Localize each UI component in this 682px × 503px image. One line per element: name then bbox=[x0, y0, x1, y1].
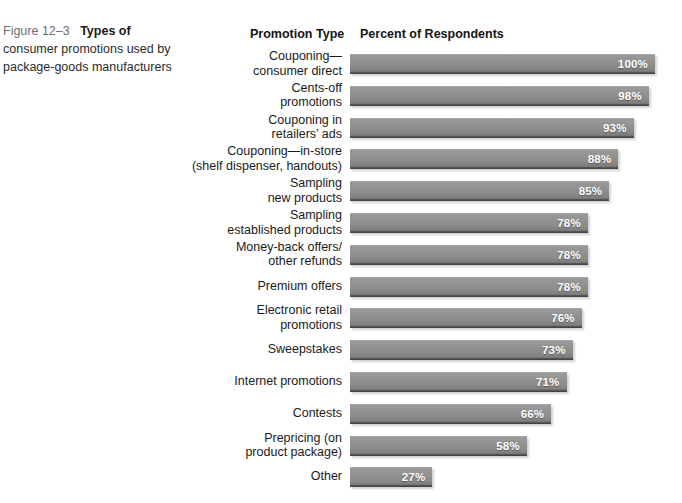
bar-row: Sweepstakes73% bbox=[0, 336, 682, 368]
bar-category-label: Prepricing (on product package) bbox=[82, 431, 342, 460]
bar-category-label: Contests bbox=[82, 406, 342, 421]
bar-row: Cents-off promotions98% bbox=[0, 82, 682, 114]
bar-category-label: Internet promotions bbox=[82, 374, 342, 389]
bar-value-label: 88% bbox=[588, 150, 612, 170]
bar-category-label: Electronic retail promotions bbox=[82, 303, 342, 332]
bar: 66% bbox=[350, 404, 551, 424]
bar: 85% bbox=[350, 181, 609, 201]
bar-value-label: 98% bbox=[618, 87, 642, 107]
bar-value-label: 66% bbox=[521, 405, 545, 425]
bar: 78% bbox=[350, 277, 588, 297]
column-header-promotion-type: Promotion Type bbox=[250, 27, 344, 41]
bar-track: 85% bbox=[350, 181, 609, 201]
bar-track: 78% bbox=[350, 277, 588, 297]
bar-row: Contests66% bbox=[0, 400, 682, 432]
bar-track: 73% bbox=[350, 340, 573, 360]
bar-value-label: 78% bbox=[557, 278, 581, 298]
bar-track: 93% bbox=[350, 118, 634, 138]
bar-row: Other27% bbox=[0, 463, 682, 495]
bar-row: Electronic retail promotions76% bbox=[0, 304, 682, 336]
bar-category-label: Money-back offers/ other refunds bbox=[82, 240, 342, 269]
bar-value-label: 71% bbox=[536, 373, 560, 393]
bar-track: 100% bbox=[350, 54, 655, 74]
column-header-percent-of-respondents: Percent of Respondents bbox=[360, 27, 504, 41]
bar-category-label: Sweepstakes bbox=[82, 342, 342, 357]
bar-category-label: Sampling established products bbox=[82, 208, 342, 237]
bar-row: Money-back offers/ other refunds78% bbox=[0, 241, 682, 273]
bar-track: 78% bbox=[350, 213, 588, 233]
bar-value-label: 73% bbox=[542, 341, 566, 361]
bar: 78% bbox=[350, 245, 588, 265]
bar-category-label: Other bbox=[82, 469, 342, 484]
bar-track: 71% bbox=[350, 372, 567, 392]
bar-track: 58% bbox=[350, 436, 527, 456]
bar-track: 27% bbox=[350, 467, 432, 487]
bar-value-label: 58% bbox=[496, 437, 520, 457]
bar-category-label: Sampling new products bbox=[82, 176, 342, 205]
bar-row: Prepricing (on product package)58% bbox=[0, 432, 682, 464]
bar-row: Sampling established products78% bbox=[0, 209, 682, 241]
bar: 93% bbox=[350, 118, 634, 138]
bar: 88% bbox=[350, 149, 618, 169]
bar-value-label: 85% bbox=[579, 182, 603, 202]
bar-track: 88% bbox=[350, 149, 618, 169]
bar-category-label: Couponing in retailers’ ads bbox=[82, 113, 342, 142]
bar: 78% bbox=[350, 213, 588, 233]
bar-category-label: Premium offers bbox=[82, 279, 342, 294]
bar-row: Couponing— consumer direct100% bbox=[0, 50, 682, 82]
bar-track: 76% bbox=[350, 308, 582, 328]
bar-row: Couponing—in-store (shelf dispenser, han… bbox=[0, 145, 682, 177]
bar-row: Premium offers78% bbox=[0, 273, 682, 305]
bar-chart: Promotion Type Percent of Respondents Co… bbox=[0, 0, 682, 503]
bar-value-label: 78% bbox=[557, 214, 581, 234]
bar: 98% bbox=[350, 86, 649, 106]
bar-value-label: 27% bbox=[402, 468, 426, 488]
bar: 76% bbox=[350, 308, 582, 328]
bar-category-label: Cents-off promotions bbox=[82, 81, 342, 110]
bar-row: Couponing in retailers’ ads93% bbox=[0, 114, 682, 146]
bar: 58% bbox=[350, 436, 527, 456]
bar-category-label: Couponing—in-store (shelf dispenser, han… bbox=[82, 144, 342, 173]
bar: 71% bbox=[350, 372, 567, 392]
bar-value-label: 93% bbox=[603, 119, 627, 139]
bar-track: 78% bbox=[350, 245, 588, 265]
bar-value-label: 76% bbox=[551, 309, 575, 329]
bar-value-label: 100% bbox=[618, 55, 648, 75]
bar-row: Sampling new products85% bbox=[0, 177, 682, 209]
bar-track: 98% bbox=[350, 86, 649, 106]
bar: 27% bbox=[350, 467, 432, 487]
bar-value-label: 78% bbox=[557, 246, 581, 266]
bar-row: Internet promotions71% bbox=[0, 368, 682, 400]
bar-category-label: Couponing— consumer direct bbox=[82, 49, 342, 78]
bar: 73% bbox=[350, 340, 573, 360]
bar-track: 66% bbox=[350, 404, 551, 424]
bar: 100% bbox=[350, 54, 655, 74]
